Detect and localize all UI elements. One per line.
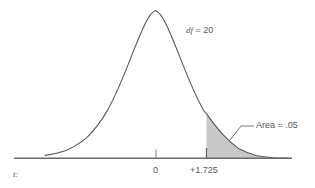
t-distribution-chart bbox=[0, 0, 315, 188]
df-value: = 20 bbox=[196, 25, 214, 35]
distribution-curve bbox=[45, 10, 289, 158]
x-tick-label-0: 0 bbox=[153, 166, 158, 175]
degrees-of-freedom-label: df = 20 bbox=[186, 26, 213, 35]
x-tick-label-critical: +1.725 bbox=[190, 166, 218, 175]
x-axis-name-label: t: bbox=[13, 170, 19, 179]
area-annotation-label: Area = .05 bbox=[256, 121, 298, 130]
area-leader-line bbox=[230, 126, 254, 140]
df-variable: df bbox=[186, 25, 193, 35]
